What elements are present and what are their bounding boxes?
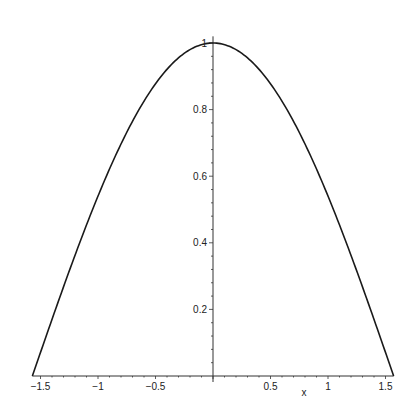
y-tick-label: 0.2: [193, 304, 207, 315]
x-axis-label: x: [302, 387, 307, 398]
x-tick-label: −0.5: [146, 381, 166, 392]
axes: [32, 36, 393, 382]
y-tick-label: 0.8: [193, 104, 207, 115]
x-tick-label: 1.5: [379, 381, 393, 392]
x-tick-label: 0.5: [264, 381, 278, 392]
cos-plot: −1.5−1−0.50.511.50.20.40.60.81 x: [0, 0, 419, 416]
y-tick-label: 0.6: [193, 171, 207, 182]
y-tick-label: 1: [201, 38, 207, 49]
tick-labels: −1.5−1−0.50.511.50.20.40.60.81: [31, 38, 393, 393]
x-tick-label: 1: [325, 381, 331, 392]
x-tick-label: −1.5: [31, 381, 51, 392]
x-tick-label: −1: [92, 381, 104, 392]
y-tick-label: 0.4: [193, 237, 207, 248]
